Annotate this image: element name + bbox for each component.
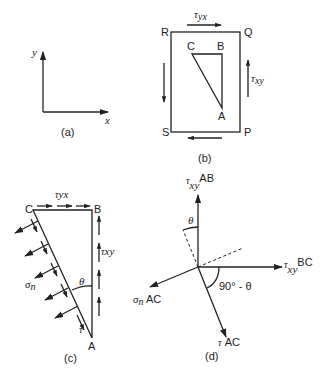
tau-xy-label: τxy (251, 72, 264, 86)
dashed-normal-line (183, 230, 198, 267)
caption-a: (a) (61, 126, 74, 138)
sigma-n-ac-label: σn AC (133, 293, 161, 307)
panel-c: θ C B A τyx τxy σn τ (c) (15, 188, 114, 364)
stress-diagram: y x (a) R Q S P C B A τyx τxy (b) (0, 0, 325, 375)
tau-label: τ (79, 324, 83, 335)
panel-d: θ 90° - θ τxyAB τxyBC σn AC τ AC (d) (133, 172, 313, 362)
sigma-n-arrow-4 (45, 288, 68, 300)
panel-a: y x (a) (31, 46, 110, 138)
panel-b: R Q S P C B A τyx τxy (b) (161, 8, 264, 164)
vertex-a: A (218, 110, 226, 122)
corner-s: S (162, 126, 169, 138)
caption-b: (b) (198, 152, 211, 164)
x-axis-label: x (104, 114, 110, 126)
sigma-n-ac-arrow (150, 267, 198, 287)
theta-arc (183, 227, 198, 230)
vertex-b: B (217, 40, 224, 52)
tau-xy-ab-label: τxyAB (186, 172, 214, 191)
corner-r: R (161, 26, 169, 38)
y-axis-label: y (31, 46, 37, 58)
corner-q: Q (244, 26, 253, 38)
tau-xy-label: τxy (101, 245, 114, 257)
vertex-c: C (25, 203, 33, 215)
theta-label: θ (188, 214, 194, 226)
tau-yx-label: τyx (194, 8, 207, 22)
tau-ac-arrow (198, 267, 226, 337)
sigma-n-arrow-5 (55, 306, 78, 318)
tau-xy-bc-label: τxyBC (284, 256, 313, 275)
corner-p: P (244, 126, 251, 138)
vertex-b: B (94, 203, 101, 215)
vertex-c: C (187, 40, 195, 52)
element-rectangle (171, 32, 240, 132)
tau-arrow-1 (31, 219, 37, 232)
angle-arc (207, 267, 219, 288)
triangle-abc (192, 54, 222, 108)
dashed-face-line (198, 248, 243, 267)
tau-yx-label: τyx (55, 188, 68, 200)
theta-label: θ (79, 275, 85, 287)
caption-c: (c) (64, 352, 77, 364)
vertex-a: A (88, 340, 96, 352)
caption-d: (d) (205, 350, 218, 362)
angle-label: 90° - θ (219, 280, 252, 292)
tau-ac-label: τ AC (218, 336, 240, 348)
sigma-n-label: σn (25, 278, 35, 292)
